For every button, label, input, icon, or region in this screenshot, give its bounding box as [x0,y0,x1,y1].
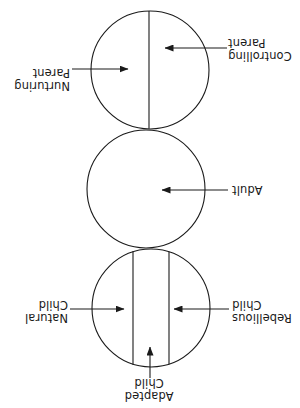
parent-ego-state-circle [91,11,209,129]
adult-circle-outline [87,130,205,248]
natural-child-label: Natural Child [2,299,68,324]
child-ego-state-circle [92,249,210,367]
adapted-child-label: Adapted Child [116,377,182,402]
child-circle-outline [92,249,210,367]
adult-label: Adult [232,184,290,197]
controlling-parent-label: Controlling Parent [228,37,298,62]
parent-circle-outline [91,11,209,129]
adult-ego-state-circle [87,130,205,248]
ego-states-diagram: Adapted Child Rebellious Child Natural C… [0,0,300,408]
nurturing-parent-label: Nurturing Parent [2,67,70,92]
rebellious-child-label: Rebellious Child [232,299,298,324]
